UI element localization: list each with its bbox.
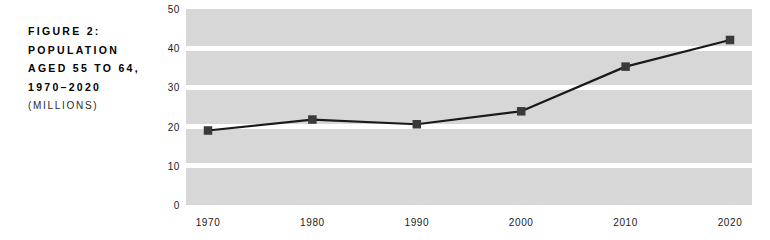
data-point-marker[interactable] [308,115,317,124]
y-axis-tick-label: 50 [146,4,180,15]
data-point-marker[interactable] [517,107,526,116]
y-axis-tick-label: 10 [146,160,180,171]
data-point-marker[interactable] [621,62,630,70]
data-point-marker[interactable] [204,126,213,134]
y-axis-tick-label: 0 [146,200,180,211]
line-series-svg [186,9,752,205]
x-axis-tick-label: 2000 [509,217,534,228]
data-line [208,40,730,131]
y-axis: 01020304050 [142,9,180,205]
data-point-marker[interactable] [726,36,735,45]
x-axis-tick-label: 1970 [196,217,221,228]
y-axis-tick-label: 30 [146,82,180,93]
y-axis-tick-label: 40 [146,43,180,54]
x-axis-tick-label: 2020 [718,217,743,228]
plot-area [186,9,752,205]
x-axis-tick-label: 1990 [404,217,429,228]
x-axis-tick-label: 2010 [613,217,638,228]
x-axis: 197019801990200020102020 [186,217,752,233]
figure-container: FIGURE 2: POPULATION AGED 55 TO 64, 1970… [0,0,770,240]
x-axis-tick-label: 1980 [300,217,325,228]
y-axis-tick-label: 20 [146,121,180,132]
data-point-marker[interactable] [413,120,422,129]
